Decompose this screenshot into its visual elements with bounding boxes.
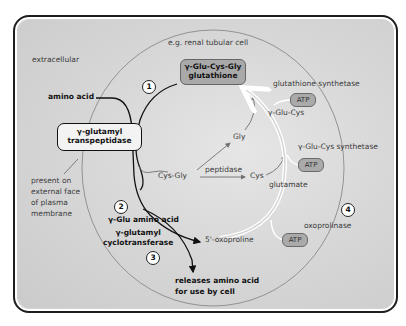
peptidase-label: peptidase	[205, 166, 242, 175]
glu-cys-synthetase-label: γ-Glu-Cys synthetase	[298, 143, 378, 152]
transpeptidase-box: γ-glutamyl transpeptidase	[57, 123, 142, 151]
release-label: releases amino acid for use by cell	[175, 275, 259, 297]
cys-gly-label: Cys-Gly	[158, 172, 187, 181]
glu-amino-acid-label: γ-Glu amino acid	[108, 198, 179, 225]
oxoprolinase-label: oxoprolinase	[304, 222, 351, 231]
cys-label: Cys	[250, 172, 264, 181]
cell-label: e.g. renal tubular cell	[168, 39, 248, 48]
glutamate-label: glutamate	[269, 181, 308, 190]
gly-label: Gly	[233, 133, 245, 142]
glutathione-name: glutathione	[181, 71, 245, 80]
cyclotransferase-label: γ-glutamyl cyclotransferase	[103, 228, 173, 248]
atp-glu-cys-synthetase: ATP	[298, 158, 324, 172]
step-3-badge: 3	[146, 251, 160, 265]
gly-to-glutathione-arrow	[245, 95, 254, 130]
transpeptidase-note: present on external face of plasma membr…	[31, 175, 80, 219]
glutathione-box: γ-Glu-Cys-Gly glutathione	[180, 59, 246, 85]
step-1-badge: 1	[142, 80, 156, 94]
glutathione-formula: γ-Glu-Cys-Gly	[181, 62, 245, 71]
atp-glutathione-synthetase: ATP	[290, 93, 316, 107]
glu-cys-label: γ-Glu-Cys	[268, 109, 304, 118]
oxoproline-label: 5'-oxoproline	[205, 236, 254, 245]
glutathione-synthetase-label: glutathione synthetase	[273, 80, 360, 89]
transpeptidase-line1: γ-glutamyl	[58, 127, 141, 136]
transpeptidase-line2: transpeptidase	[58, 136, 141, 145]
step-4-badge: 4	[341, 203, 355, 217]
extracellular-label: extracellular	[32, 56, 79, 65]
atp-oxoprolinase: ATP	[282, 233, 308, 247]
cys-to-synthetase-arrow	[266, 155, 285, 175]
note-pointer-line	[64, 159, 78, 174]
amino-acid-label: amino acid	[48, 93, 94, 102]
